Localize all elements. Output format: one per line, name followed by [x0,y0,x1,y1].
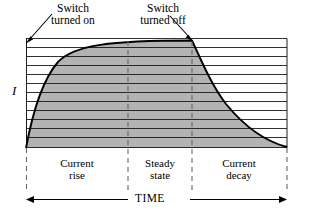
time-arrow-left [26,196,34,203]
phase-label-current-rise: Current rise [41,158,113,181]
diagram-svg [0,0,312,215]
callout-switch-off: Switch turned off [126,2,200,26]
phase-steady-state-line1: Steady [124,158,196,170]
y-axis-label: I [12,83,16,99]
phase-label-current-decay: Current decay [203,158,275,181]
callout-switch-off-line1: Switch [126,2,200,14]
callout-switch-on-line1: Switch [36,2,110,14]
phase-label-steady-state: Steady state [124,158,196,181]
phase-current-decay-line1: Current [203,158,275,170]
phase-current-rise-line2: rise [41,170,113,182]
callout-switch-off-line2: turned off [126,14,200,26]
time-arrow-right [279,196,287,203]
phase-current-decay-line2: decay [203,170,275,182]
figure-canvas: I Switch turned on Switch turned off Cur… [0,0,312,215]
callout-switch-on-line2: turned on [36,14,110,26]
phase-steady-state-line2: state [124,170,196,182]
x-axis-label: TIME [135,192,165,204]
phase-current-rise-line1: Current [41,158,113,170]
callout-switch-on: Switch turned on [36,2,110,26]
